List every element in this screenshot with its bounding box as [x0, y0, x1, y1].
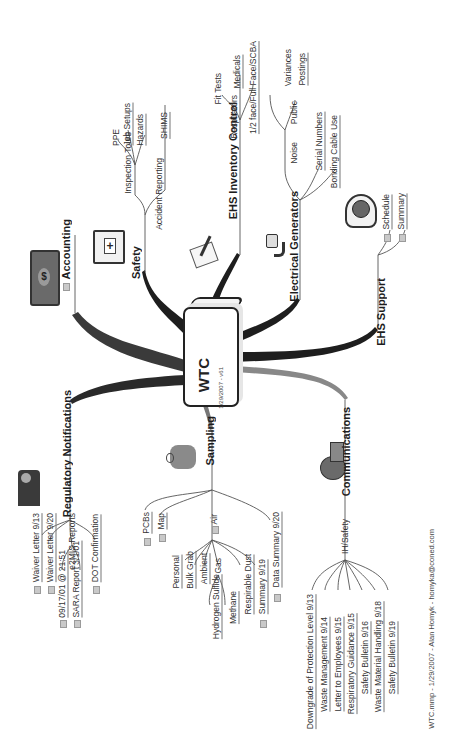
- subtopic-dot-confirmation[interactable]: DOT Confirmation: [91, 514, 102, 582]
- note-icon[interactable]: [159, 534, 166, 542]
- mind-map: WTC 1/29/2007 - v61 $ Accounting + Safet…: [0, 0, 451, 754]
- subtopic-methane[interactable]: Methane: [229, 591, 240, 624]
- first-aid-kit-icon: +: [93, 230, 125, 264]
- subtopic-waiver-letter-913[interactable]: Waiver Letter 9/13: [32, 513, 43, 582]
- subtopic-data-summary[interactable]: Data Summary 9/20: [272, 512, 283, 588]
- central-topic-subtitle: 1/29/2007 - v61: [218, 367, 224, 409]
- topic-ehs-support[interactable]: EHS Support: [376, 278, 387, 346]
- topic-regulatory-notifications[interactable]: Regulatory Notifications: [62, 390, 73, 517]
- money-icon: $: [30, 250, 60, 306]
- clock-icon: [345, 194, 377, 228]
- subtopic-gas[interactable]: Gas: [214, 558, 223, 574]
- subtopic-summary-919[interactable]: Summary 9/19: [258, 559, 269, 614]
- power-plug-icon: [262, 228, 284, 256]
- judge-icon: [18, 470, 40, 506]
- note-icon[interactable]: [34, 586, 41, 594]
- checklist-icon: [190, 235, 218, 265]
- subtopic-noise[interactable]: Noise: [290, 142, 299, 164]
- subtopic-postings[interactable]: Postings: [298, 53, 309, 86]
- note-icon[interactable]: [93, 586, 100, 594]
- subtopic-public[interactable]: Public: [290, 101, 299, 124]
- subtopic-waiver-letter-920[interactable]: Waiver Letter 9/20: [46, 513, 57, 582]
- subtopic-summary[interactable]: Summary: [397, 193, 408, 229]
- topic-accounting[interactable]: Accounting: [61, 219, 72, 280]
- subtopic-respirable-dust[interactable]: Respirable Dust: [244, 554, 255, 614]
- footer-text: WTC.mmp - 1/29/2007 - Alan Homyk - homyk…: [428, 529, 436, 729]
- subtopic-face-scba[interactable]: 1/2 face/Full Face/SCBA: [249, 41, 260, 134]
- subtopic-bonding-cable-use[interactable]: Bonding Cable Use: [330, 115, 341, 188]
- comm-item-7[interactable]: Safety Bulletin 9/19: [388, 621, 399, 694]
- comm-item-3[interactable]: Letter to Employees 9/15: [334, 617, 345, 712]
- comm-item-6[interactable]: Waste Material Handling 9/18: [374, 601, 385, 712]
- note-icon[interactable]: [48, 586, 55, 594]
- note-icon[interactable]: [144, 538, 151, 546]
- note-icon[interactable]: [260, 620, 267, 628]
- subtopic-pcbs[interactable]: PCBs: [142, 512, 153, 534]
- comm-item-5[interactable]: Safety Bulletin 9/16: [361, 621, 372, 694]
- note-icon[interactable]: [384, 234, 391, 242]
- subtopic-ambient[interactable]: Ambient: [200, 553, 211, 584]
- subtopic-accident-reporting[interactable]: Accident Reporting: [155, 158, 164, 230]
- sampler-worker-icon: [170, 445, 196, 469]
- note-icon[interactable]: [60, 620, 67, 628]
- comm-item-2[interactable]: Waste Management 9/14: [320, 617, 331, 712]
- note-icon[interactable]: [274, 594, 281, 602]
- topic-safety[interactable]: Safety: [131, 246, 142, 279]
- subtopic-schedule[interactable]: Schedule: [382, 194, 393, 229]
- subtopic-job-setups[interactable]: Job Setups: [123, 103, 134, 146]
- topic-communications[interactable]: Communications: [341, 407, 352, 496]
- note-icon[interactable]: [399, 234, 406, 242]
- topic-sampling[interactable]: Sampling: [205, 416, 216, 466]
- subtopic-bulk-grab[interactable]: Bulk Grab: [186, 551, 197, 589]
- subtopic-hydrogen-sulfide[interactable]: Hydrogen Sulfide: [212, 574, 223, 639]
- subtopic-ppe[interactable]: PPE: [112, 129, 121, 146]
- subtopic-fit-tests[interactable]: Fit Tests: [214, 73, 223, 105]
- note-icon[interactable]: [63, 283, 70, 291]
- topic-electrical-generators[interactable]: Electrical Generators: [289, 191, 300, 302]
- subtopic-shims[interactable]: SHIMS: [160, 112, 171, 139]
- subtopic-air[interactable]: Air: [210, 514, 219, 524]
- subtopic-respirators[interactable]: Respirators: [230, 95, 239, 138]
- subtopic-timestamp[interactable]: 09/17/01 @ 21:51: [58, 550, 69, 618]
- comm-item-1[interactable]: Downgrade of Protection Level 9/13: [306, 594, 317, 729]
- subtopic-medicals[interactable]: Medicals: [233, 55, 244, 89]
- note-icon[interactable]: [212, 526, 219, 534]
- subtopic-ih-safety[interactable]: IH/Safety: [341, 519, 350, 554]
- subtopic-sara-report[interactable]: SARA Report 3/1/01: [72, 541, 83, 618]
- subtopic-personal[interactable]: Personal: [172, 555, 183, 589]
- comm-item-4[interactable]: Respiratory Guidance 9/15: [347, 613, 358, 714]
- subtopic-map[interactable]: Map: [157, 513, 168, 530]
- central-topic-title: WTC: [196, 358, 211, 392]
- note-icon[interactable]: [74, 620, 81, 628]
- subtopic-hazards[interactable]: Hazards: [136, 114, 147, 146]
- subtopic-variances[interactable]: Variances: [284, 49, 293, 86]
- subtopic-serial-numbers[interactable]: Serial Numbers: [315, 112, 326, 171]
